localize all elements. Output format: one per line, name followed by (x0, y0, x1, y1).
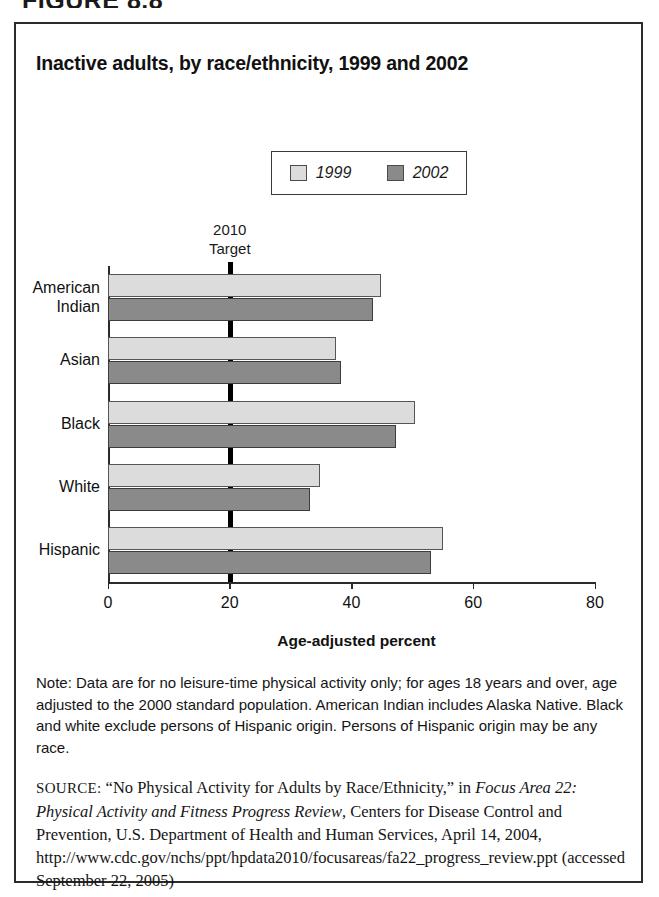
x-axis-tick-label: 0 (88, 594, 128, 612)
chart-source: SOURCE: “No Physical Activity for Adults… (36, 776, 628, 892)
category-label-line: Asian (0, 350, 100, 369)
category-label-line: Indian (0, 297, 100, 316)
legend-item-1999: 1999 (290, 164, 352, 182)
x-axis-tick (351, 582, 353, 589)
category-label-white: White (0, 477, 100, 496)
bar-black-2002 (108, 425, 396, 448)
category-label-line: Black (0, 414, 100, 433)
chart-legend: 1999 2002 (271, 151, 467, 195)
bar-asian-2002 (108, 361, 341, 384)
legend-item-2002: 2002 (387, 164, 449, 182)
target-reference-line (228, 262, 233, 584)
x-axis-tick-label: 20 (210, 594, 250, 612)
x-axis-line (108, 582, 595, 584)
legend-label-1999: 1999 (316, 164, 352, 182)
chart-note: Note: Data are for no leisure-time physi… (36, 672, 628, 758)
x-axis-tick (595, 582, 597, 589)
legend-label-2002: 2002 (413, 164, 449, 182)
x-axis-title: Age-adjusted percent (42, 632, 659, 650)
source-label: SOURCE: (36, 780, 101, 796)
x-axis-tick (473, 582, 475, 589)
chart-title: Inactive adults, by race/ethnicity, 1999… (36, 52, 468, 75)
category-label-hispanic: Hispanic (0, 540, 100, 559)
source-text-1: “No Physical Activity for Adults by Race… (106, 778, 476, 797)
category-label-black: Black (0, 414, 100, 433)
x-axis-tick (229, 582, 231, 589)
category-label-line: Hispanic (0, 540, 100, 559)
target-label-line2: Target (170, 239, 290, 258)
target-label-line1: 2010 (170, 220, 290, 239)
x-axis-tick-label: 40 (332, 594, 372, 612)
figure-box: Inactive adults, by race/ethnicity, 1999… (14, 22, 643, 883)
bar-black-1999 (108, 401, 415, 424)
figure-caption: FIGURE 8.8 (22, 0, 163, 8)
target-label: 2010 Target (170, 220, 290, 258)
legend-swatch-2002 (387, 165, 404, 181)
bar-white-1999 (108, 464, 320, 487)
bar-hispanic-1999 (108, 527, 443, 550)
bar-white-2002 (108, 488, 310, 511)
category-label-line: American (0, 278, 100, 297)
category-label-asian: Asian (0, 350, 100, 369)
category-label-american-indian: AmericanIndian (0, 278, 100, 316)
y-axis-line (108, 266, 110, 584)
bar-asian-1999 (108, 337, 336, 360)
x-axis-tick (108, 582, 110, 589)
legend-swatch-1999 (290, 165, 307, 181)
x-axis-tick-label: 60 (453, 594, 493, 612)
category-label-line: White (0, 477, 100, 496)
bar-american-indian-1999 (108, 274, 381, 297)
bar-american-indian-2002 (108, 298, 373, 321)
bar-hispanic-2002 (108, 551, 431, 574)
x-axis-tick-label: 80 (575, 594, 615, 612)
